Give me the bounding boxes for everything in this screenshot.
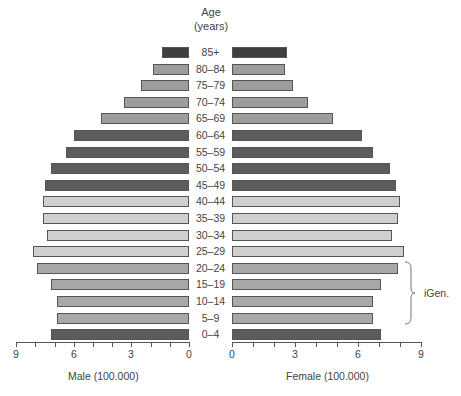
male-bar <box>74 130 189 141</box>
age-group-label: 15–19 <box>190 279 231 290</box>
female-bar <box>232 130 362 141</box>
x-tick <box>316 342 317 347</box>
x-tick <box>379 342 380 347</box>
male-bar <box>45 180 189 191</box>
age-group-label: 80–84 <box>190 64 231 75</box>
x-tick <box>151 342 152 347</box>
age-group-label: 25–29 <box>190 246 231 257</box>
age-group-label: 60–64 <box>190 130 231 141</box>
female-bar <box>232 64 285 75</box>
female-bar <box>232 196 400 207</box>
age-group-label: 70–74 <box>190 97 231 108</box>
female-bar <box>232 246 404 257</box>
age-group-label: 20–24 <box>190 263 231 274</box>
male-bar <box>47 230 189 241</box>
x-tick <box>274 342 275 347</box>
population-pyramid-chart: Age (years) 85+80–8475–7970–7465–6960–64… <box>0 0 461 396</box>
age-group-label: 0–4 <box>190 329 231 340</box>
male-bar <box>162 47 189 58</box>
age-group-label: 65–69 <box>190 113 231 124</box>
female-bar <box>232 180 396 191</box>
male-bar <box>37 263 189 274</box>
female-axis-title: Female (100.000) <box>286 370 369 382</box>
age-group-label: 5–9 <box>190 313 231 324</box>
x-tick <box>337 342 338 347</box>
female-tick-label: 9 <box>411 348 431 360</box>
male-x-axis <box>16 342 190 343</box>
female-x-axis <box>232 342 422 343</box>
age-group-label: 10–14 <box>190 296 231 307</box>
x-tick <box>189 342 190 347</box>
age-group-label: 50–54 <box>190 163 231 174</box>
male-tick-label: 0 <box>179 348 199 360</box>
male-tick-label: 9 <box>6 348 26 360</box>
female-bar <box>232 163 390 174</box>
male-tick-label: 6 <box>64 348 84 360</box>
male-bar <box>57 313 189 324</box>
female-bar <box>232 263 398 274</box>
age-group-label: 35–39 <box>190 213 231 224</box>
female-tick-label: 6 <box>348 348 368 360</box>
female-tick-label: 0 <box>222 348 242 360</box>
age-group-label: 45–49 <box>190 180 231 191</box>
male-axis-title: Male (100.000) <box>68 370 139 382</box>
x-tick <box>170 342 171 347</box>
male-tick-label: 3 <box>121 348 141 360</box>
x-tick <box>74 342 75 347</box>
age-group-label: 40–44 <box>190 196 231 207</box>
female-bar <box>232 329 381 340</box>
x-tick <box>295 342 296 347</box>
x-tick <box>35 342 36 347</box>
male-bar <box>153 64 189 75</box>
male-bar <box>51 279 189 290</box>
male-bar <box>33 246 189 257</box>
male-bar <box>43 213 189 224</box>
chart-title-line1: Age <box>168 5 254 19</box>
male-bar <box>66 147 189 158</box>
age-group-label: 30–34 <box>190 230 231 241</box>
female-bar <box>232 47 287 58</box>
female-bar <box>232 213 398 224</box>
female-bar <box>232 296 373 307</box>
age-group-label: 55–59 <box>190 147 231 158</box>
female-bar <box>232 147 373 158</box>
female-bar <box>232 113 333 124</box>
x-tick <box>131 342 132 347</box>
igen-label: iGen. <box>424 287 449 299</box>
x-tick <box>400 342 401 347</box>
female-tick-label: 3 <box>285 348 305 360</box>
male-bar <box>51 163 189 174</box>
male-bar <box>124 97 189 108</box>
x-tick <box>358 342 359 347</box>
igen-brace-icon <box>400 258 420 328</box>
x-tick <box>55 342 56 347</box>
female-bar <box>232 97 308 108</box>
female-bar <box>232 279 381 290</box>
x-tick <box>232 342 233 347</box>
age-group-label: 85+ <box>190 47 231 58</box>
male-bar <box>141 80 189 91</box>
x-tick <box>112 342 113 347</box>
male-bar <box>101 113 189 124</box>
chart-title-line2: (years) <box>168 19 254 33</box>
male-bar <box>57 296 189 307</box>
x-tick <box>93 342 94 347</box>
female-bar <box>232 313 373 324</box>
male-bar <box>51 329 189 340</box>
male-bar <box>43 196 189 207</box>
female-bar <box>232 230 392 241</box>
x-tick <box>421 342 422 347</box>
x-tick <box>253 342 254 347</box>
age-group-label: 75–79 <box>190 80 231 91</box>
female-bar <box>232 80 293 91</box>
x-tick <box>16 342 17 347</box>
